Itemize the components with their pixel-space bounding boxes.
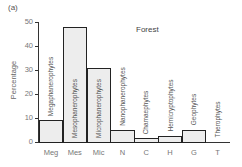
x-tick-label: T <box>206 148 230 157</box>
x-tick-label: H <box>158 148 182 157</box>
bar-h <box>158 136 182 143</box>
y-tick-mark <box>35 22 39 23</box>
y-tick-label: 40 <box>19 41 33 50</box>
bar-name-label: Megaphanerophytes <box>47 57 54 116</box>
bar-name-label: Chamaephytes <box>143 90 150 134</box>
x-tick-label: Meg <box>39 148 63 157</box>
y-tick-label: 10 <box>19 113 33 122</box>
bar-name-label: Mesophanerophytes <box>71 79 78 138</box>
y-tick-mark <box>35 118 39 119</box>
y-tick-mark <box>35 46 39 47</box>
y-tick-label: 20 <box>19 89 33 98</box>
x-tick-label: C <box>134 148 158 157</box>
x-tick-label: G <box>182 148 206 157</box>
y-axis-label: Percentage <box>9 61 18 99</box>
bar-name-label: Geophytes <box>190 94 197 125</box>
bar-g <box>182 130 206 143</box>
bar-name-label: Nanophanerophytes <box>119 67 126 126</box>
panel-label: (a) <box>8 3 18 12</box>
chart-title: Forest <box>136 25 159 34</box>
bar-name-label: Microphanerophytes <box>95 79 102 138</box>
bar-n <box>110 130 134 143</box>
bar-name-label: Therophytes <box>214 101 221 137</box>
y-tick-label: 30 <box>19 65 33 74</box>
bar-c <box>134 138 158 143</box>
y-tick-mark <box>35 70 39 71</box>
y-tick-label: 0 <box>19 137 33 146</box>
bar-meg <box>39 120 63 143</box>
y-tick-mark <box>35 94 39 95</box>
x-tick-label: N <box>110 148 134 157</box>
x-tick-label: Mes <box>63 148 87 157</box>
x-tick-label: Mic <box>87 148 111 157</box>
bar-name-label: Hemicryptophytes <box>166 79 173 131</box>
y-tick-label: 50 <box>19 17 33 26</box>
